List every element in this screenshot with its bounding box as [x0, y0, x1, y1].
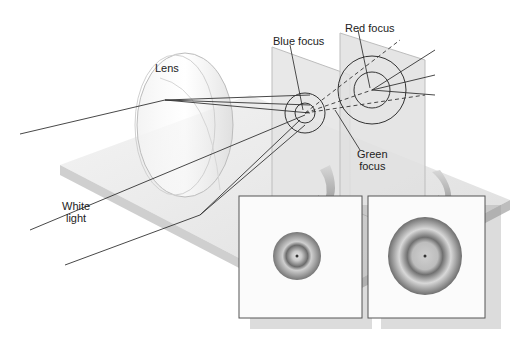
- green-focus-label: Green focus: [357, 148, 388, 172]
- diagram-canvas: [0, 0, 510, 340]
- blue-focus-label: Blue focus: [273, 35, 324, 47]
- white-light-label: White light: [62, 200, 90, 224]
- white-light-label-line1: White: [62, 200, 90, 212]
- inset-blue: [239, 196, 372, 329]
- green-focus-label-line2: focus: [357, 160, 388, 172]
- green-focus-label-line1: Green: [357, 148, 388, 160]
- lens-label: Lens: [155, 62, 179, 74]
- white-light-label-line2: light: [62, 212, 90, 224]
- red-focus-label: Red focus: [345, 22, 395, 34]
- chromatic-aberration-diagram: Lens White light Blue focus Red focus Gr…: [0, 0, 510, 340]
- inset-red: [368, 196, 501, 329]
